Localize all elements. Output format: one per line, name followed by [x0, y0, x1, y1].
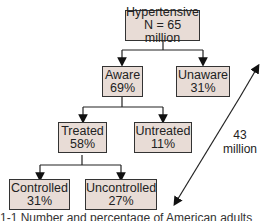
arrow-label: 43 million — [218, 128, 262, 156]
node-label: Controlled — [10, 182, 69, 195]
node-label: Uncontrolled — [86, 182, 156, 195]
node-label: Unaware — [177, 69, 229, 82]
node-value: N = 65 million — [126, 19, 199, 45]
node-unaware: Unaware 31% — [176, 66, 230, 97]
node-value: 31% — [177, 82, 229, 95]
node-controlled: Controlled 31% — [9, 179, 70, 210]
node-untreated: Untreated 11% — [134, 122, 192, 153]
arrow-label-unit: million — [218, 142, 262, 156]
node-treated: Treated 58% — [58, 122, 107, 153]
arrow-label-number: 43 — [218, 128, 262, 142]
node-value: 69% — [103, 82, 142, 95]
figure-caption: 1-1 Number and percentage of American ad… — [0, 211, 252, 221]
node-value: 58% — [59, 138, 106, 151]
node-value: 31% — [10, 195, 69, 208]
node-label: Treated — [59, 125, 106, 138]
node-label: Untreated — [135, 125, 191, 138]
node-hypertensive: Hypertensive N = 65 million — [125, 10, 200, 41]
node-label: Aware — [103, 69, 142, 82]
node-uncontrolled: Uncontrolled 27% — [85, 179, 157, 210]
node-value: 11% — [135, 138, 191, 151]
node-value: 27% — [86, 195, 156, 208]
node-aware: Aware 69% — [102, 66, 143, 97]
